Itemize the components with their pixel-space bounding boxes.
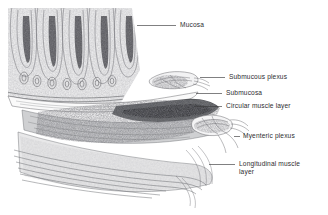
anatomy-figure: Mucosa Submucous plexus Submucosa Circul… <box>0 0 328 215</box>
villi-group <box>4 4 142 110</box>
label-mucosa: Mucosa <box>180 21 204 29</box>
label-longitudinal-muscle-layer: Longitudinal muscle layer <box>239 160 300 177</box>
label-submucous-plexus: Submucous plexus <box>229 73 287 81</box>
label-circular-muscle-layer: Circular muscle layer <box>226 102 291 110</box>
submucous-plexus-shape <box>149 72 210 90</box>
label-submucosa: Submucosa <box>226 89 262 97</box>
label-myenteric-plexus: Myenteric plexus <box>243 132 295 140</box>
